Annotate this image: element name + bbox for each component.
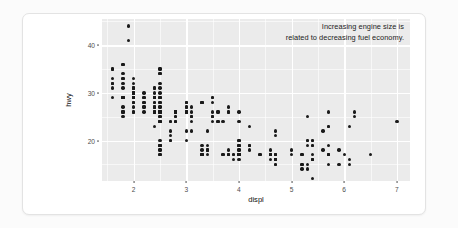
data-point <box>369 153 372 156</box>
gridline-minor-vertical <box>318 19 319 181</box>
data-point <box>169 120 172 123</box>
data-point <box>158 91 161 94</box>
data-point <box>337 163 340 166</box>
data-point <box>158 110 161 113</box>
data-point <box>211 101 214 104</box>
gridline-major-vertical <box>292 19 293 181</box>
data-point <box>327 144 330 147</box>
x-axis-tick-label: 6 <box>342 186 346 193</box>
data-point <box>200 153 203 156</box>
y-axis-tick-mark <box>97 92 99 93</box>
data-point <box>111 82 114 85</box>
gridline-minor-horizontal <box>102 164 410 165</box>
gridline-major-horizontal <box>102 45 410 46</box>
gridline-major-vertical <box>344 19 345 181</box>
data-point <box>232 153 235 156</box>
data-point <box>237 148 240 151</box>
data-point <box>190 129 193 132</box>
data-point <box>237 110 240 113</box>
data-point <box>185 110 188 113</box>
data-point <box>185 105 188 108</box>
gridline-minor-horizontal <box>102 117 410 118</box>
x-axis-tick-label: 4 <box>237 186 241 193</box>
data-point <box>121 105 124 108</box>
data-point <box>121 96 124 99</box>
data-point <box>190 105 193 108</box>
data-point <box>227 110 230 113</box>
gridline-minor-horizontal <box>102 69 410 70</box>
data-point <box>111 86 114 89</box>
data-point <box>300 167 303 170</box>
data-point <box>200 148 203 151</box>
data-point <box>121 82 124 85</box>
data-point <box>269 153 272 156</box>
data-point <box>158 86 161 89</box>
data-point <box>327 163 330 166</box>
data-point <box>174 110 177 113</box>
data-point <box>121 77 124 80</box>
data-point <box>206 153 209 156</box>
data-point <box>158 120 161 123</box>
data-point <box>327 125 330 128</box>
data-point <box>169 129 172 132</box>
data-point <box>132 110 135 113</box>
data-point <box>132 91 135 94</box>
data-point <box>237 144 240 147</box>
data-point <box>311 144 314 147</box>
data-point <box>237 120 240 123</box>
data-point <box>211 96 214 99</box>
data-point <box>153 91 156 94</box>
gridline-minor-vertical <box>265 19 266 181</box>
gridline-major-vertical <box>134 19 135 181</box>
data-point <box>206 148 209 151</box>
data-point <box>300 163 303 166</box>
gridline-minor-vertical <box>107 19 108 181</box>
data-point <box>311 177 314 180</box>
screenshot-root: Increasing engine size is related to dec… <box>0 0 458 228</box>
data-point <box>111 67 114 70</box>
data-point <box>353 115 356 118</box>
data-point <box>153 96 156 99</box>
data-point <box>227 153 230 156</box>
data-point <box>158 67 161 70</box>
data-point <box>158 144 161 147</box>
annotation-line-1: Increasing engine size is <box>286 22 404 33</box>
data-point <box>274 153 277 156</box>
data-point <box>121 63 124 66</box>
data-point <box>348 163 351 166</box>
data-point <box>158 139 161 142</box>
data-point <box>127 39 130 42</box>
data-point <box>311 158 314 161</box>
data-point <box>127 24 130 27</box>
data-point <box>221 153 224 156</box>
data-point <box>121 72 124 75</box>
data-point <box>200 101 203 104</box>
data-point <box>169 134 172 137</box>
data-point <box>216 110 219 113</box>
data-point <box>306 167 309 170</box>
data-point <box>348 158 351 161</box>
gridline-major-vertical <box>239 19 240 181</box>
y-axis-tick-label: 30 <box>88 89 95 96</box>
data-point <box>153 101 156 104</box>
y-axis-tick-mark <box>97 140 99 141</box>
plot-annotation: Increasing engine size is related to dec… <box>286 22 404 43</box>
gridline-major-horizontal <box>102 141 410 142</box>
data-point <box>142 101 145 104</box>
data-point <box>185 129 188 132</box>
data-point <box>237 139 240 142</box>
x-axis-tick-mark <box>344 181 345 183</box>
data-point <box>142 91 145 94</box>
y-axis-tick-mark <box>97 45 99 46</box>
x-axis-tick-label: 3 <box>184 186 188 193</box>
data-point <box>274 163 277 166</box>
data-point <box>121 86 124 89</box>
data-point <box>190 120 193 123</box>
data-point <box>269 148 272 151</box>
y-axis-tick-label: 20 <box>88 137 95 144</box>
data-point <box>211 120 214 123</box>
data-point <box>348 125 351 128</box>
annotation-line-2: related to decreasing fuel economy. <box>286 33 404 44</box>
data-point <box>300 153 303 156</box>
data-point <box>216 120 219 123</box>
